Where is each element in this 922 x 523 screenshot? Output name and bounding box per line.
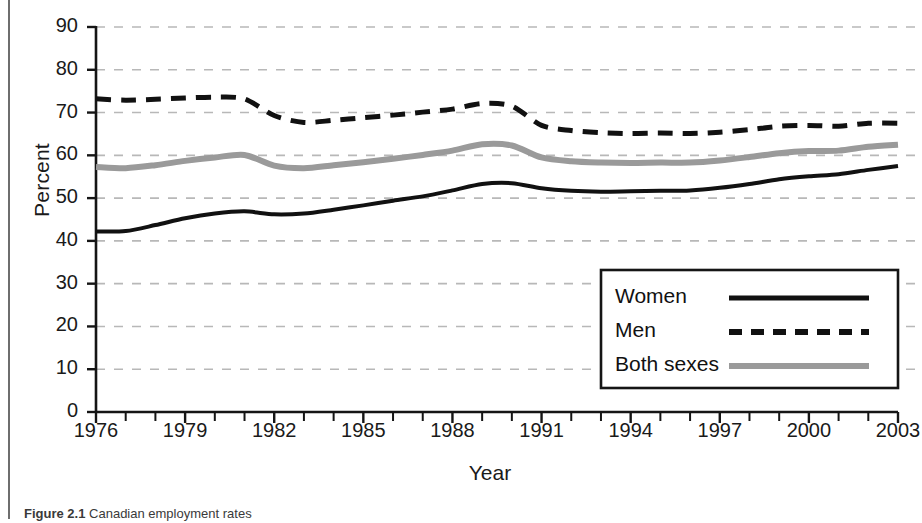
x-tick-label: 2003 (858, 419, 922, 442)
x-tick-label: 1997 (680, 419, 760, 442)
legend-label-men: Men (615, 318, 656, 342)
y-tick-marks-group (87, 27, 96, 412)
x-axis-title: Year (420, 461, 560, 485)
x-tick-label: 1979 (145, 419, 225, 442)
y-tick-label: 60 (26, 142, 78, 165)
line-chart-canvas (0, 0, 922, 523)
figure-container: Percent Year 0102030405060708090 1976197… (0, 0, 922, 523)
x-tick-label: 1976 (56, 419, 136, 442)
x-tick-label: 1985 (323, 419, 403, 442)
y-tick-label: 50 (26, 185, 78, 208)
y-tick-label: 80 (26, 57, 78, 80)
y-tick-label: 40 (26, 228, 78, 251)
x-tick-label: 2000 (769, 419, 849, 442)
figure-caption-label: Figure 2.1 (24, 506, 85, 521)
legend-label-both-sexes: Both sexes (615, 352, 719, 376)
y-tick-label: 10 (26, 356, 78, 379)
y-tick-label: 70 (26, 100, 78, 123)
y-tick-label: 20 (26, 313, 78, 336)
x-tick-label: 1991 (502, 419, 582, 442)
figure-caption: Figure 2.1 Canadian employment rates (24, 506, 252, 521)
y-tick-label: 90 (26, 14, 78, 37)
series-line-men (96, 97, 898, 133)
x-tick-label: 1988 (412, 419, 492, 442)
figure-caption-text: Canadian employment rates (89, 506, 252, 521)
x-tick-label: 1982 (234, 419, 314, 442)
legend-label-women: Women (615, 284, 687, 308)
data-series-group (96, 97, 898, 232)
x-tick-label: 1994 (591, 419, 671, 442)
y-tick-label: 30 (26, 271, 78, 294)
